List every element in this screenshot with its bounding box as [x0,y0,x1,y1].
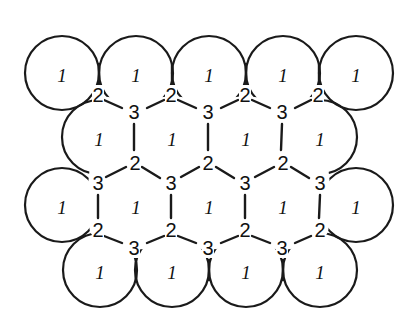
site-label-2: 2 [277,152,288,174]
bond-line [281,124,282,150]
sphere-label: 1 [94,129,104,150]
sphere-label: 1 [167,129,177,150]
site-label-2: 2 [92,219,103,241]
site-label-2: 2 [202,152,213,174]
site-label-2: 2 [92,84,103,106]
site-label-2: 2 [314,219,325,241]
sphere-label: 1 [57,65,67,86]
sphere-label: 1 [204,65,214,86]
site-label-2: 2 [165,84,176,106]
bond-line [319,195,320,218]
site-label-3: 3 [314,172,325,194]
sphere-label: 1 [57,197,67,218]
site-label-3: 3 [202,237,213,259]
site-label-3: 3 [276,237,287,259]
sphere-packing-diagram: 111111111111111111222222222223333333333 [0,0,417,328]
sphere-label: 1 [131,197,141,218]
sphere-label: 1 [167,262,177,283]
site-label-3: 3 [239,172,250,194]
site-label-2: 2 [129,152,140,174]
sphere-label: 1 [241,262,251,283]
sphere-label: 1 [351,65,361,86]
site-label-2: 2 [165,219,176,241]
sphere-label: 1 [278,197,288,218]
site-label-3: 3 [202,101,213,123]
sphere-label: 1 [315,262,325,283]
site-labels: 111111111111111111222222222223333333333 [57,65,361,283]
site-label-3: 3 [165,172,176,194]
site-label-3: 3 [128,237,139,259]
sphere-label: 1 [278,65,288,86]
sphere-label: 1 [351,197,361,218]
sphere-label: 1 [95,262,105,283]
site-label-3: 3 [128,101,139,123]
sphere-label: 1 [131,65,141,86]
sphere-label: 1 [204,197,214,218]
site-label-3: 3 [92,172,103,194]
sphere-label: 1 [241,129,251,150]
site-label-3: 3 [276,101,287,123]
site-label-2: 2 [312,84,323,106]
site-label-2: 2 [239,84,250,106]
site-label-2: 2 [239,219,250,241]
sphere-label: 1 [315,129,325,150]
